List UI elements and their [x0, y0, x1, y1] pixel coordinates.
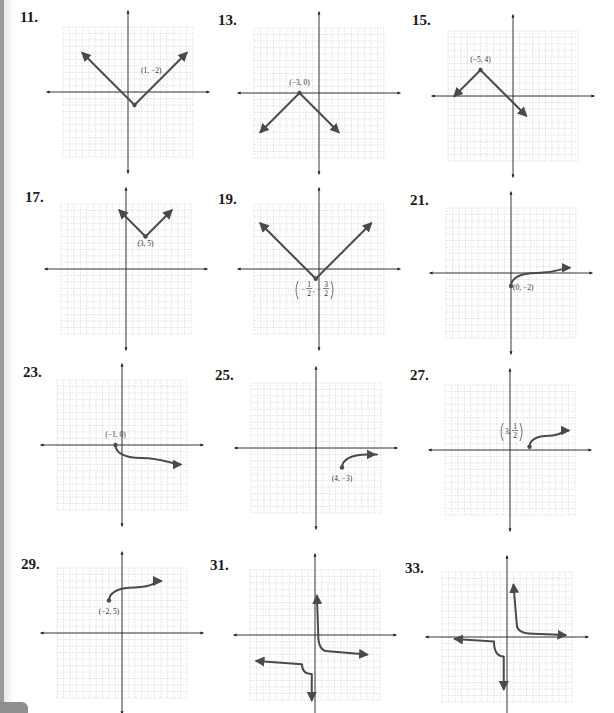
graphs-canvas: (1, −2)(−3, 0)(−5, 4)(3, 5)(0, −2)(−1, 0…: [0, 0, 614, 713]
graph-15: (−5, 4): [432, 15, 595, 178]
point-label: (−2, 5): [99, 607, 120, 616]
point-label: (3, 5): [137, 239, 154, 248]
graph-25: (4, −3): [235, 367, 398, 530]
point-label: (0, −2): [513, 283, 534, 292]
graph-17: (3, 5): [45, 188, 208, 351]
svg-text:2: 2: [513, 431, 517, 440]
point-label: (−3, 0): [289, 78, 310, 87]
graph-23: (−1, 0): [41, 364, 204, 527]
graph-13: (−3, 0): [238, 12, 401, 175]
point-label: (−5, 4): [470, 55, 491, 64]
graph-31: [234, 554, 397, 713]
point-label-27: 3,12: [501, 422, 522, 441]
svg-text:, −: , −: [313, 285, 321, 294]
svg-text:3,: 3,: [505, 427, 511, 436]
graph-19: [238, 188, 401, 351]
graph-33: [426, 556, 589, 713]
svg-text:1: 1: [513, 422, 517, 431]
graph-21: (0, −2): [430, 192, 593, 355]
svg-text:−: −: [301, 285, 305, 294]
svg-text:2: 2: [307, 289, 311, 298]
graph-29: (−2, 5): [41, 552, 204, 713]
svg-text:3: 3: [324, 280, 328, 289]
graph-11: (1, −2): [47, 11, 210, 174]
point-label: (1, −2): [141, 66, 162, 75]
svg-text:1: 1: [307, 280, 311, 289]
svg-text:2: 2: [324, 289, 328, 298]
point-label: (−1, 0): [105, 430, 126, 439]
graph-27: [429, 369, 592, 532]
point-label: (4, −3): [332, 474, 353, 483]
point-label-19: −12, −32: [296, 280, 333, 299]
